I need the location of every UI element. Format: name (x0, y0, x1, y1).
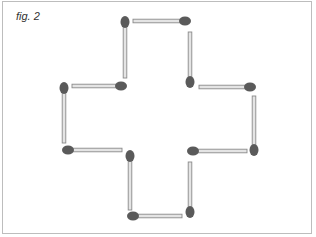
match-head (121, 16, 130, 28)
match-head (244, 83, 256, 92)
match-head (250, 144, 259, 156)
match-head (127, 212, 139, 221)
match-head (115, 82, 127, 91)
matchstick (186, 162, 195, 218)
matchstick (121, 16, 130, 78)
matchstick (133, 17, 191, 26)
match-head (186, 76, 195, 88)
match-head (60, 82, 69, 94)
matchstick (126, 150, 135, 210)
match-head (179, 17, 191, 26)
match-head (186, 206, 195, 218)
match-head (187, 147, 199, 156)
match-head (126, 150, 135, 162)
matchstick (187, 147, 247, 156)
matchstick (186, 32, 195, 88)
matchstick (62, 146, 122, 155)
matchstick (60, 82, 69, 143)
matchstick (250, 96, 259, 156)
matchstick (127, 212, 182, 221)
matchstick (72, 82, 127, 91)
matchstick (199, 83, 256, 92)
matchstick-cross-diagram (0, 0, 316, 237)
match-head (62, 146, 74, 155)
